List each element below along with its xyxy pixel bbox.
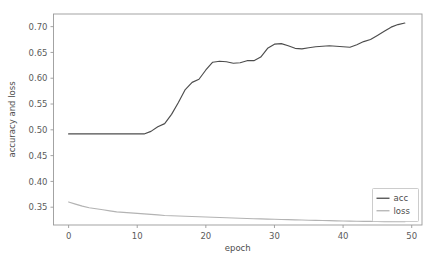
y-tick-label: 0.40 [29, 177, 48, 187]
x-tick-label: 20 [200, 231, 211, 241]
x-tick-label: 30 [269, 231, 280, 241]
y-tick-label: 0.45 [29, 151, 48, 161]
x-tick-label: 0 [66, 231, 71, 241]
line-chart: 01020304050 0.350.400.450.500.550.600.65… [0, 0, 440, 269]
figure-background [0, 0, 440, 269]
y-tick-label: 0.55 [29, 99, 48, 109]
y-tick-label: 0.60 [29, 73, 48, 83]
x-axis-label: epoch [225, 243, 251, 253]
y-tick-label: 0.50 [29, 125, 48, 135]
y-axis-label: accuracy and loss [7, 81, 17, 158]
x-tick-label: 40 [338, 231, 349, 241]
x-tick-label: 10 [132, 231, 143, 241]
y-tick-label: 0.35 [29, 202, 48, 212]
chart-legend: accloss [373, 189, 419, 222]
chart-figure: 01020304050 0.350.400.450.500.550.600.65… [0, 0, 440, 269]
x-tick-label: 50 [406, 231, 417, 241]
y-tick-label: 0.65 [29, 48, 48, 58]
legend-label-acc: acc [394, 193, 409, 203]
legend-label-loss: loss [394, 206, 411, 216]
y-tick-label: 0.70 [29, 22, 48, 32]
